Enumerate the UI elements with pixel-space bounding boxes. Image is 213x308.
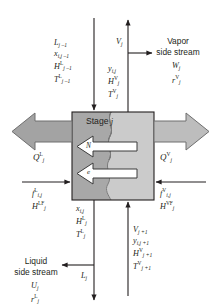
label-L-j: Lj [81, 272, 87, 281]
label-x-ij: xi,j [76, 205, 87, 214]
label-H-L-jm1: HLj –1 [54, 61, 72, 72]
liquid-heat-arrow [12, 113, 72, 150]
vapor-side-stream-heading: Vapor side stream [146, 36, 210, 57]
liquid-inlet-labels: Lj –1 xi,j –1 HLj –1 TLj –1 [54, 39, 72, 86]
label-f-L-ij: fLi,j [32, 188, 46, 199]
liquid-side-stream-heading: Liquid side stream [4, 256, 68, 277]
transfer-arrow-label-e: e [87, 169, 90, 176]
stage-balance-diagram: Stage j N e Lj –1 xi,j –1 HLj –1 TLj –1 … [0, 0, 213, 308]
liquid-side-stream-line1: Liquid [25, 256, 47, 266]
liquid-leaving-labels: xi,j HLj TLj [76, 205, 87, 241]
label-H-LF-j: HLFj [32, 201, 46, 212]
liquid-side-stream-line2: side stream [14, 267, 57, 277]
label-r-V-j: rVj [172, 75, 181, 86]
vapor-side-stream-line2: side stream [156, 47, 199, 57]
label-T-V-j: TVj [108, 89, 119, 100]
liquid-feed-labels: fLi,j HLFj [32, 188, 46, 213]
label-U-j: Uj [31, 282, 38, 291]
label-T-L-jm1: TLj –1 [54, 74, 72, 85]
label-V-j: Vj [116, 38, 123, 47]
label-H-L-j: HLj [76, 216, 87, 227]
label-T-L-j: TLj [76, 229, 87, 240]
label-H-V-j: HVj [108, 76, 119, 87]
label-y-ij: yi,j [108, 65, 119, 74]
label-r-L-j: rLj [31, 294, 39, 305]
label-H-V-jp1: HVj +1 [133, 248, 152, 259]
label-T-V-jp1: TVj +1 [133, 261, 152, 272]
label-Q-V-j: QVj [160, 152, 172, 163]
label-W-j: Wj [172, 62, 180, 71]
stage-label: Stage j [86, 116, 113, 126]
label-H-VF-j: HVFj [160, 201, 174, 212]
label-L-jm1: Lj –1 [54, 39, 72, 48]
label-y-ijp1: yi,j +1 [133, 237, 152, 246]
label-x-ijm1: xi,j –1 [54, 50, 72, 59]
vapor-feed-labels: fVi,j HVFj [160, 188, 174, 213]
label-V-jp1: Vj +1 [133, 226, 152, 235]
label-Q-L-j: QLj [33, 152, 44, 163]
stage-label-index: j [111, 116, 113, 126]
vapor-side-stream-line1: Vapor [167, 36, 189, 46]
vapor-inlet-labels: Vj +1 yi,j +1 HVj +1 TVj +1 [133, 226, 152, 273]
label-f-V-ij: fVi,j [160, 188, 174, 199]
vapor-leaving-labels: yi,j HVj TVj [108, 65, 119, 101]
transfer-arrow-label-N: N [86, 142, 91, 150]
stage-label-text: Stage [86, 116, 108, 126]
vapor-heat-arrow [154, 113, 209, 150]
